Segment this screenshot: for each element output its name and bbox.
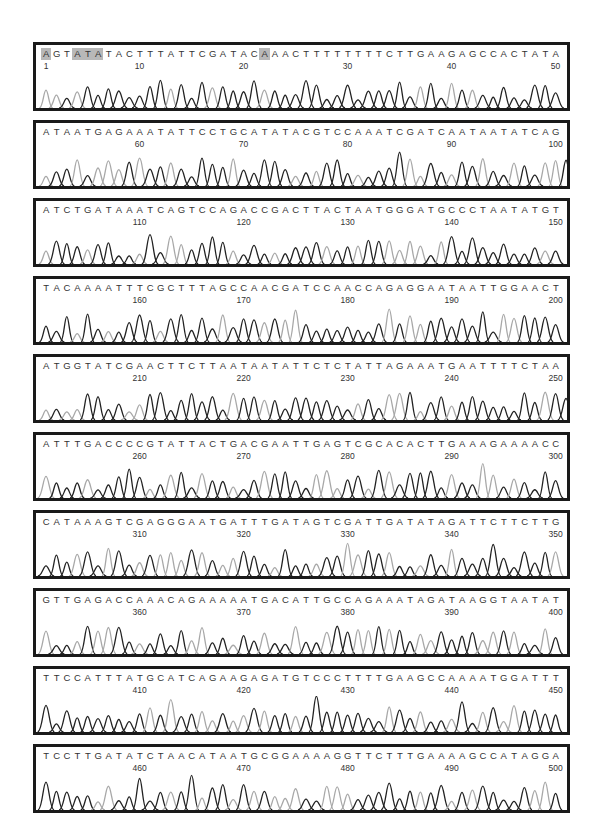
position-label: 50 [551, 61, 560, 71]
base-call: T [436, 438, 446, 450]
base-call: C [540, 282, 550, 294]
base-call: C [311, 672, 321, 684]
base-call: G [415, 282, 425, 294]
base-call: T [301, 438, 311, 450]
base-call: A [415, 516, 425, 528]
base-call: A [249, 282, 259, 294]
base-call: T [239, 360, 249, 372]
base-call: A [239, 594, 249, 606]
base-call: C [155, 204, 165, 216]
base-call: T [176, 672, 186, 684]
base-call: T [72, 438, 82, 450]
position-ticks: 260270280290300 [36, 451, 567, 462]
base-call: A [509, 438, 519, 450]
base-call: C [197, 48, 207, 60]
base-call: A [124, 126, 134, 138]
base-call: C [311, 282, 321, 294]
base-call: A [103, 594, 113, 606]
base-call: A [207, 594, 217, 606]
base-call: A [114, 204, 124, 216]
base-call: A [197, 594, 207, 606]
base-call: T [51, 204, 61, 216]
base-call: G [311, 126, 321, 138]
base-call: C [62, 282, 72, 294]
base-call: T [103, 48, 113, 60]
trace-peaks [36, 150, 567, 186]
position-label: 160 [133, 295, 147, 305]
base-sequence: ATGGTATCGAACTTCTTAATAATATTCTCTATTAGAAATG… [36, 360, 567, 372]
base-call: T [540, 672, 550, 684]
position-label: 230 [341, 373, 355, 383]
base-call: T [488, 282, 498, 294]
base-call: A [353, 594, 363, 606]
trace-peaks [36, 228, 567, 264]
base-call: A [551, 48, 561, 60]
position-label: 220 [237, 373, 251, 383]
base-call: G [447, 360, 457, 372]
base-call: C [197, 204, 207, 216]
base-call: T [187, 204, 197, 216]
base-call: T [353, 672, 363, 684]
base-call: T [176, 438, 186, 450]
base-call: T [509, 516, 519, 528]
base-call: G [540, 204, 550, 216]
base-call: T [51, 594, 61, 606]
base-call: A [83, 594, 93, 606]
base-call: T [499, 516, 509, 528]
base-call: G [551, 516, 561, 528]
base-call: A [457, 438, 467, 450]
base-call: T [322, 48, 332, 60]
base-sequence: ATCTGATAAATCAGTCCAGACCGACTTACTAATGGGATGC… [36, 204, 567, 216]
base-call: C [197, 126, 207, 138]
base-call: T [311, 594, 321, 606]
base-call: G [135, 516, 145, 528]
base-call: T [353, 48, 363, 60]
base-call: A [41, 126, 51, 138]
base-call: A [447, 126, 457, 138]
base-call: C [488, 516, 498, 528]
base-call: T [124, 282, 134, 294]
base-call: G [176, 204, 186, 216]
base-call: C [124, 594, 134, 606]
base-call: T [395, 750, 405, 762]
base-call: C [259, 750, 269, 762]
base-call: A [353, 126, 363, 138]
base-call: G [218, 282, 228, 294]
base-call: C [343, 594, 353, 606]
base-call: T [62, 516, 72, 528]
base-call: A [540, 360, 550, 372]
base-call: T [519, 48, 529, 60]
base-sequence: AGTATATACTTTATTCGATACAAACTTTTTTTTCTTGAAG… [36, 48, 567, 60]
base-call: T [447, 594, 457, 606]
base-call: T [343, 204, 353, 216]
base-call: C [249, 438, 259, 450]
base-call: T [499, 594, 509, 606]
base-call: A [103, 126, 113, 138]
base-sequence: TTCCATTTATGCATCAGAAGAGATGTCCCTTTTGAAGCCA… [36, 672, 567, 684]
base-call: C [332, 204, 342, 216]
base-call: T [51, 438, 61, 450]
base-call: T [311, 204, 321, 216]
base-call: A [291, 750, 301, 762]
position-label: 270 [237, 451, 251, 461]
base-call: A [103, 750, 113, 762]
trace-peaks [36, 384, 567, 420]
base-call: A [374, 594, 384, 606]
position-label: 490 [445, 763, 459, 773]
base-call: A [270, 438, 280, 450]
base-call: T [135, 48, 145, 60]
position-label: 290 [445, 451, 459, 461]
base-call: A [83, 672, 93, 684]
base-call: T [249, 594, 259, 606]
base-call: A [83, 282, 93, 294]
position-label: 480 [341, 763, 355, 773]
base-call: T [239, 516, 249, 528]
chromatogram-panel-4: TACAAAATTTCGCTTTAGCCAACGATCCAACCAGAGGAAT… [33, 276, 570, 345]
base-call: A [343, 282, 353, 294]
base-call: T [405, 594, 415, 606]
base-call: T [51, 360, 61, 372]
base-call: T [384, 126, 394, 138]
base-call: T [187, 126, 197, 138]
base-call: A [405, 360, 415, 372]
base-call: G [124, 360, 134, 372]
